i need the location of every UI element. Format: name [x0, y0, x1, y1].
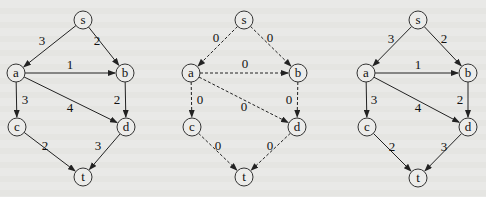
arrow-icon [366, 82, 367, 117]
edge-s-a: 0 [198, 26, 238, 66]
flow-network-figure: 32134223sabcdt00000000sabcdt32134223sabc… [0, 0, 486, 197]
edge-label: 2 [441, 31, 448, 46]
node-label: c [14, 119, 20, 134]
edge-label: 2 [389, 139, 396, 154]
node-label: a [188, 65, 194, 80]
node-b: b [459, 64, 477, 82]
node-label: d [294, 119, 301, 134]
node-a: a [7, 64, 25, 82]
arrow-icon [125, 82, 126, 117]
edge-label: 0 [286, 92, 293, 107]
node-label: s [241, 12, 246, 27]
node-c: c [358, 118, 376, 136]
edge-label: 3 [441, 139, 448, 154]
edge-label: 0 [242, 56, 249, 71]
node-label: s [415, 12, 420, 27]
edge-label: 0 [241, 99, 248, 114]
node-a: a [357, 64, 375, 82]
node-a: a [182, 64, 200, 82]
node-t: t [409, 169, 427, 187]
edge-label: 0 [215, 138, 222, 153]
node-b: b [289, 64, 307, 82]
edge-label: 2 [94, 33, 101, 48]
node-s: s [409, 11, 427, 29]
edge-label: 0 [197, 92, 204, 107]
edge-label: 2 [457, 92, 464, 107]
node-label: d [123, 119, 130, 134]
node-c: c [183, 118, 201, 136]
node-d: d [459, 118, 477, 136]
arrow-icon [16, 82, 17, 117]
node-s: s [235, 11, 253, 29]
node-d: d [117, 118, 135, 136]
edge-label: 1 [67, 57, 74, 72]
edge-label: 4 [415, 100, 422, 115]
edge-s-b: 2 [89, 27, 119, 65]
node-label: d [465, 119, 472, 134]
node-t: t [235, 168, 253, 186]
edge-label: 2 [42, 138, 49, 153]
node-c: c [8, 118, 26, 136]
node-t: t [74, 168, 92, 186]
edge-label: 3 [388, 31, 395, 46]
node-label: a [363, 65, 369, 80]
edge-label: 0 [267, 138, 274, 153]
edge-label: 1 [415, 57, 422, 72]
node-label: c [189, 119, 195, 134]
node-label: t [242, 169, 246, 184]
node-label: a [13, 65, 19, 80]
node-label: t [81, 169, 85, 184]
edge-s-a: 3 [373, 26, 412, 65]
node-s: s [74, 11, 92, 29]
edge-label: 3 [95, 138, 102, 153]
node-label: t [416, 170, 420, 185]
edge-label: 3 [371, 92, 378, 107]
edge-label: 2 [114, 92, 121, 107]
node-label: b [465, 65, 472, 80]
node-label: c [364, 119, 370, 134]
edge-label: 3 [39, 33, 46, 48]
diagram-svg: 32134223sabcdt00000000sabcdt32134223sabc… [0, 0, 486, 197]
node-d: d [288, 118, 306, 136]
edge-label: 3 [22, 92, 29, 107]
edge-label: 0 [267, 30, 274, 45]
node-label: b [122, 65, 129, 80]
edge-label: 4 [67, 100, 74, 115]
node-label: s [80, 12, 85, 27]
node-label: b [295, 65, 302, 80]
edge-label: 0 [213, 30, 220, 45]
edge-s-b: 2 [424, 27, 461, 66]
edge-s-b: 0 [250, 26, 290, 66]
node-b: b [116, 64, 134, 82]
